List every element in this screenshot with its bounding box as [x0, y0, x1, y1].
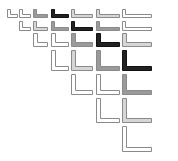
l-bracket-icon: [71, 21, 93, 31]
l-bracket-icon: [122, 126, 152, 152]
l-bracket-icon: [96, 50, 120, 71]
l-bracket-icon: [96, 74, 120, 95]
l-bracket-icon: [122, 33, 152, 47]
l-bracket-icon: [96, 9, 120, 18]
l-bracket-icon: [51, 50, 69, 71]
l-bracket-icon: [71, 9, 93, 18]
l-bracket-icon: [71, 33, 93, 47]
l-bracket-icon: [96, 98, 120, 123]
l-bracket-icon: [122, 21, 152, 31]
l-bracket-icon: [51, 21, 69, 31]
l-bracket-icon: [51, 9, 69, 18]
l-bracket-icon: [33, 9, 48, 18]
l-bracket-icon: [122, 50, 152, 71]
l-bracket-icon: [19, 21, 31, 31]
l-bracket-icon: [122, 98, 152, 123]
l-bracket-icon: [71, 74, 93, 95]
l-bracket-icon: [7, 9, 18, 18]
l-bracket-icon: [51, 33, 69, 47]
l-bracket-icon: [96, 21, 120, 31]
bracket-grid-diagram: [0, 0, 178, 161]
l-bracket-icon: [33, 21, 48, 31]
l-bracket-icon: [122, 74, 152, 95]
l-bracket-icon: [96, 33, 120, 47]
l-bracket-icon: [122, 9, 152, 18]
l-bracket-icon: [71, 50, 93, 71]
l-bracket-icon: [19, 9, 31, 18]
l-bracket-icon: [33, 33, 48, 47]
